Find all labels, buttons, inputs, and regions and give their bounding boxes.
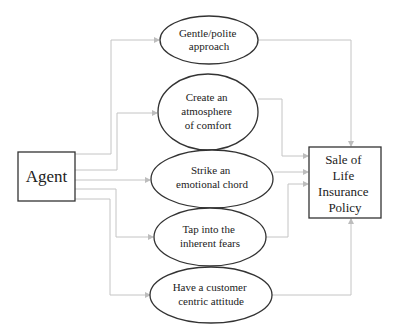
strategy-gentle: Gentle/polite approach	[160, 16, 258, 64]
svg-text:Create an atmosphere: Create an atmosphere of comfort	[181, 91, 234, 131]
edge-customer-sale	[272, 219, 351, 295]
label-line: of comfort	[185, 119, 232, 131]
strategy-comfort: Create an atmosphere of comfort	[158, 74, 258, 150]
edge-fears-sale	[266, 184, 308, 237]
label-line: Sale of	[325, 152, 362, 167]
label-line: Have a customer	[173, 281, 247, 293]
edge-gentle-sale	[257, 40, 351, 146]
sale-node: Sale of Life Insurance Policy	[309, 147, 381, 218]
strategy-fears: Tap into the inherent fears	[154, 208, 266, 266]
label-line: Gentle/polite	[179, 27, 237, 39]
flow-diagram: Agent Gentle/polite approach Create an a…	[0, 0, 395, 333]
label-line: Insurance	[318, 184, 369, 199]
strategy-emotional: Strike an emotional chord	[151, 150, 273, 208]
strategy-customer: Have a customer centric attitude	[150, 267, 272, 323]
label-line: inherent fears	[180, 237, 240, 249]
label-line: Life	[333, 168, 355, 183]
connectors-agent-to-strategies	[75, 40, 159, 295]
edge-comfort-sale	[258, 99, 308, 156]
edge-agent-customer	[75, 199, 150, 295]
edge-agent-fears	[75, 189, 153, 237]
label-line: Tap into the	[182, 223, 235, 235]
label-line: Strike an	[191, 164, 231, 176]
agent-node: Agent	[18, 152, 75, 201]
label-line: centric attitude	[178, 295, 244, 307]
label-line: Policy	[328, 200, 362, 215]
agent-label: Agent	[26, 167, 68, 186]
label-line: emotional chord	[176, 178, 248, 190]
label-line: approach	[189, 40, 230, 52]
label-line: Create an	[186, 91, 228, 103]
label-line: atmosphere	[181, 105, 232, 117]
edge-agent-comfort	[75, 113, 157, 170]
